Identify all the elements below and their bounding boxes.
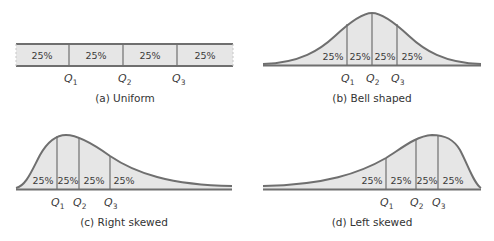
segment-label: 25%	[401, 51, 422, 62]
segment-label: 25%	[442, 175, 463, 186]
segment-label: 25%	[349, 51, 370, 62]
segment-label: 25%	[113, 175, 134, 186]
segment-label: 25%	[390, 175, 411, 186]
q2-label: Q2	[73, 196, 87, 211]
segment-label: 25%	[57, 175, 78, 186]
panel-left-skewed: 25% 25% 25% 25% Q1 Q2 Q3 (d) Left skewed	[263, 135, 481, 228]
segment-label: 25%	[416, 175, 437, 186]
segment-label: 25%	[139, 50, 160, 61]
panel-bell-shaped: 25% 25% 25% 25% Q1 Q2 Q3 (b) Bell shaped	[263, 13, 481, 104]
q1-label: Q1	[341, 72, 355, 87]
segment-label: 25%	[322, 51, 343, 62]
q3-label: Q3	[391, 72, 405, 87]
segment-label: 25%	[194, 50, 215, 61]
q2-label: Q2	[366, 72, 380, 87]
distribution-shapes-figure: 25% 25% 25% 25% Q1 Q2 Q3 (a) Uniform 25%…	[0, 0, 494, 241]
caption: (c) Right skewed	[80, 216, 168, 228]
caption: (b) Bell shaped	[332, 92, 411, 104]
segment-label: 25%	[32, 175, 53, 186]
q1-label: Q1	[64, 72, 78, 87]
segment-label: 25%	[374, 51, 395, 62]
q3-label: Q3	[432, 196, 446, 211]
caption: (a) Uniform	[95, 92, 155, 104]
q3-label: Q3	[172, 72, 186, 87]
segment-label: 25%	[361, 175, 382, 186]
q2-label: Q2	[118, 72, 132, 87]
q1-label: Q1	[380, 196, 394, 211]
segment-label: 25%	[31, 50, 52, 61]
caption: (d) Left skewed	[332, 216, 413, 228]
panel-right-skewed: 25% 25% 25% 25% Q1 Q2 Q3 (c) Right skewe…	[16, 135, 232, 228]
q1-label: Q1	[51, 196, 65, 211]
q2-label: Q2	[410, 196, 424, 211]
panel-uniform: 25% 25% 25% 25% Q1 Q2 Q3 (a) Uniform	[16, 44, 233, 104]
q3-label: Q3	[104, 196, 118, 211]
segment-label: 25%	[85, 50, 106, 61]
segment-label: 25%	[83, 175, 104, 186]
